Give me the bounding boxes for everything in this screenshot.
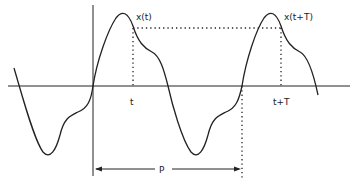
periodic-signal-diagram: x(t) x(t+T) t t+T P [0, 0, 353, 184]
arrowhead-right-icon [234, 167, 241, 172]
label-x-t: x(t) [136, 12, 152, 22]
label-period: P [159, 165, 165, 175]
label-t: t [130, 97, 134, 107]
label-t-plus-T: t+T [273, 97, 290, 107]
signal-waveform [14, 13, 318, 155]
label-x-t-plus-T: x(t+T) [284, 12, 313, 22]
arrowhead-left-icon [95, 167, 102, 172]
